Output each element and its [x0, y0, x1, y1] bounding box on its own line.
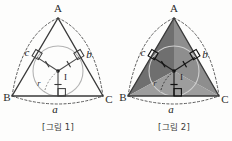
fig1-vertex-label-b: B	[3, 91, 10, 103]
fig1-side-label-c: c	[25, 46, 30, 58]
fig1-side-label-a: a	[52, 103, 58, 115]
fig1-vertex-label-c: C	[105, 93, 112, 105]
fig2-vertex-label-b: B	[119, 91, 126, 103]
fig2-vertex-label-a: A	[170, 2, 178, 14]
figure-2-caption: [그림 2]	[116, 122, 232, 133]
figure-2-diagram: A B C c b a I r	[116, 0, 232, 122]
figure-1-caption: [그림 1]	[0, 122, 116, 133]
fig2-vertex-label-c: C	[221, 93, 228, 105]
fig2-side-label-c: c	[141, 46, 146, 58]
fig1-vertex-label-a: A	[54, 2, 62, 14]
figure-1-diagram: A B C c b a I r	[0, 0, 116, 122]
fig2-side-label-a: a	[168, 103, 174, 115]
fig1-inradius-label: r	[37, 78, 41, 88]
fig2-side-label-b: b	[202, 48, 208, 60]
fig2-incenter-label: I	[180, 72, 183, 82]
fig1-radius-indicator	[45, 71, 59, 92]
fig1-incenter-label: I	[64, 72, 67, 82]
fig1-side-label-b: b	[86, 48, 92, 60]
figure-board: A B C c b a I r [그림 1]	[0, 0, 232, 141]
